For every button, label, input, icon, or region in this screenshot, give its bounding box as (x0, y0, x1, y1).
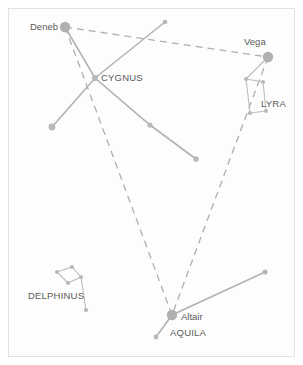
star-lyra-se (264, 109, 268, 113)
star-vega (263, 52, 273, 62)
star-cygnus-ne (163, 20, 168, 25)
sky-map-svg: DenebVegaAltairCYGNUSLYRAAQUILADELPHINUS (0, 0, 303, 365)
star-cygnus-sw (49, 124, 56, 131)
star-aquila-sw (154, 335, 159, 340)
star-delphinus-w (55, 270, 59, 274)
constellation-label-lyra: LYRA (261, 98, 286, 109)
star-sadr (92, 75, 98, 81)
star-label-altair: Altair (181, 311, 203, 322)
star-cygnus-mid-se (147, 122, 152, 127)
star-lyra-sw (248, 111, 252, 115)
star-delphinus-n (70, 265, 74, 269)
star-label-vega: Vega (244, 36, 266, 47)
constellation-label-cygnus: CYGNUS (101, 72, 143, 83)
star-label-deneb: Deneb (30, 21, 58, 32)
star-delphinus-s (66, 281, 70, 285)
chart-frame (9, 9, 295, 357)
constellation-label-delphinus: DELPHINUS (28, 290, 84, 301)
constellation-label-aquila: AQUILA (170, 327, 207, 338)
star-chart-canvas: DenebVegaAltairCYGNUSLYRAAQUILADELPHINUS (0, 0, 303, 365)
star-lyra-nw (244, 77, 248, 81)
star-delphinus-tail (84, 308, 88, 312)
star-altair (167, 310, 177, 320)
star-deneb (60, 22, 70, 32)
star-lyra-ne (261, 80, 265, 84)
star-aquila-ne (262, 269, 267, 274)
star-cygnus-se (193, 156, 199, 162)
star-delphinus-e (79, 275, 83, 279)
